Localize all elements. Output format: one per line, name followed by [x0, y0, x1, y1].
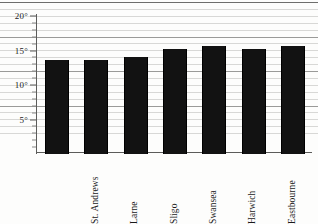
bar-chart-figure: 20°15°10°5° St. AndrewsLarneSligoSwansea…: [0, 0, 318, 224]
bar: [281, 46, 305, 154]
minor-gridline: [0, 9, 318, 10]
x-axis-tick-label: St Austell: [296, 154, 318, 224]
y-axis-tick-label: 15°: [0, 46, 28, 56]
y-axis-labels: 20°15°10°5°: [0, 14, 36, 154]
x-axis-labels: St. AndrewsLarneSligoSwanseaHarwichEastb…: [36, 154, 312, 224]
bar: [84, 60, 108, 154]
y-axis-tick-label: 20°: [0, 11, 28, 21]
bar: [202, 46, 226, 154]
bar: [242, 49, 266, 154]
y-axis-tick-label: 10°: [0, 80, 28, 90]
y-axis-tick-label: 5°: [0, 115, 28, 125]
bar: [163, 49, 187, 154]
bar: [124, 57, 148, 154]
bar: [45, 60, 69, 155]
plot-top-rule: [0, 2, 318, 3]
bar-series: [36, 14, 312, 154]
